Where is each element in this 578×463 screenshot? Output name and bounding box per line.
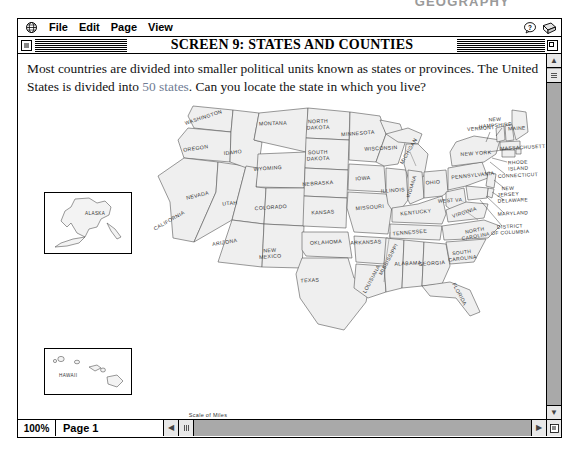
us-map[interactable]: WASHINGTONOREGONCALIFORNIANEVADAIDAHOMON… — [18, 92, 546, 412]
window-title: SCREEN 9: STATES AND COUNTIES — [127, 37, 457, 53]
hawaii-shape — [45, 349, 131, 394]
menu-bar-right-icons: ? — [522, 20, 557, 35]
book-icon[interactable] — [542, 20, 557, 35]
menu-item-page[interactable]: Page — [111, 22, 137, 33]
menu-item-edit[interactable]: Edit — [79, 22, 100, 33]
page-header-text: GEOGRAPHY — [415, 0, 510, 9]
arrow-right-glyph: ▶ — [536, 424, 542, 432]
alaska-label: ALASKA — [85, 211, 105, 216]
vertical-scrollbar[interactable]: ▲ ▼ — [546, 54, 561, 419]
content-wrapper: Most countries are divided into smaller … — [18, 54, 561, 419]
scroll-up-arrow-icon[interactable]: ▲ — [547, 54, 561, 68]
window-title-bar[interactable]: SCREEN 9: STATES AND COUNTIES — [18, 37, 561, 54]
alaska-inset[interactable]: ALASKA — [44, 192, 132, 254]
status-bar: 100% Page 1 ◀ ▶ — [18, 419, 561, 436]
menu-item-view[interactable]: View — [148, 22, 173, 33]
globe-icon[interactable] — [24, 21, 38, 35]
application-window: File Edit Page View ? — [17, 18, 562, 438]
arrow-down-glyph: ▼ — [550, 409, 558, 417]
zoom-box[interactable] — [547, 40, 558, 51]
arrow-up-glyph: ▲ — [550, 57, 558, 65]
arrow-left-glyph: ◀ — [168, 424, 174, 432]
paragraph-line-1: Most countries are divided into smaller … — [27, 61, 498, 76]
scroll-right-arrow-icon[interactable]: ▶ — [531, 420, 546, 436]
resize-grip-icon[interactable] — [546, 420, 561, 436]
menu-item-file[interactable]: File — [49, 22, 68, 33]
lesson-paragraph: Most countries are divided into smaller … — [27, 60, 541, 96]
hawaii-label: HAWAII — [59, 373, 77, 378]
title-bar-stripes-left — [35, 39, 127, 52]
document-content: Most countries are divided into smaller … — [18, 54, 546, 419]
screenshot-root: GEOGRAPHY File Edit Page View — [0, 0, 578, 463]
close-box[interactable] — [21, 40, 32, 51]
scroll-down-arrow-icon[interactable]: ▼ — [547, 405, 561, 419]
map-scale-bar: Scale of Miles 0 500 1000 — [132, 412, 284, 419]
vertical-scroll-thumb[interactable] — [547, 69, 561, 83]
zoom-level[interactable]: 100% — [18, 420, 56, 436]
alaska-shape — [45, 193, 131, 253]
page-header-cutoff: GEOGRAPHY — [0, 0, 578, 9]
svg-text:?: ? — [528, 23, 532, 30]
scale-title: Scale of Miles — [132, 412, 284, 418]
title-bar-stripes-right — [457, 39, 545, 52]
help-icon[interactable]: ? — [522, 20, 537, 35]
scroll-left-arrow-icon[interactable]: ◀ — [164, 420, 179, 436]
hawaii-inset[interactable]: HAWAII — [44, 348, 132, 395]
menu-bar: File Edit Page View ? — [18, 19, 561, 37]
page-indicator[interactable]: Page 1 — [56, 420, 164, 436]
horizontal-scroll-thumb[interactable] — [179, 420, 194, 436]
horizontal-scroll-track[interactable] — [194, 420, 531, 436]
